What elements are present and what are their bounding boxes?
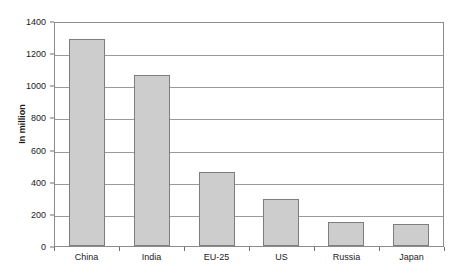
x-axis-tick-label: Japan	[379, 252, 444, 262]
y-axis-tick-labels: 0200400600800100012001400	[0, 22, 54, 247]
x-axis-tick-mark	[314, 247, 315, 251]
plot-area	[54, 22, 444, 247]
bar-slot	[249, 23, 314, 246]
bar-slot	[184, 23, 249, 246]
y-axis-tick-label: 1200	[26, 49, 46, 59]
y-axis-tick-label: 0	[41, 242, 46, 252]
x-axis-tick-mark	[184, 247, 185, 251]
y-axis-tick-label: 1400	[26, 17, 46, 27]
bar-slot	[55, 23, 120, 246]
x-axis-tick-label: Russia	[314, 252, 379, 262]
x-axis-tick-mark	[54, 247, 55, 251]
bar-slot	[378, 23, 443, 246]
y-axis-tick-label: 200	[31, 210, 46, 220]
y-axis-tick-label: 600	[31, 146, 46, 156]
bar-slot	[120, 23, 185, 246]
bar-slot	[314, 23, 379, 246]
y-axis-tick-label: 800	[31, 113, 46, 123]
bar	[263, 199, 299, 246]
bar	[393, 224, 429, 247]
y-axis-tick-label: 400	[31, 178, 46, 188]
bar	[134, 75, 170, 246]
x-axis-tick-mark	[119, 247, 120, 251]
bar	[328, 222, 364, 246]
bar	[69, 39, 105, 246]
bar-chart: In million 0200400600800100012001400 Chi…	[0, 0, 458, 276]
x-axis-tick-label: India	[119, 252, 184, 262]
x-axis-tick-label: EU-25	[184, 252, 249, 262]
y-axis-tick-label: 1000	[26, 81, 46, 91]
x-axis-tick-mark	[444, 247, 445, 251]
x-axis-tick-mark	[249, 247, 250, 251]
bar	[199, 172, 235, 246]
x-axis-tick-label: US	[249, 252, 314, 262]
x-axis-tick-mark	[379, 247, 380, 251]
bar-series	[55, 23, 443, 246]
x-axis-tick-label: China	[54, 252, 119, 262]
x-axis-tick-labels: ChinaIndiaEU-25USRussiaJapan	[54, 252, 444, 262]
